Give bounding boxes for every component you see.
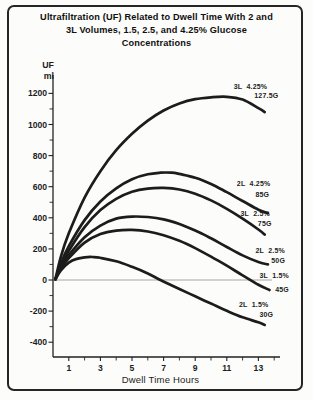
curve-label-2l-2-5: 2L 2.5% xyxy=(256,247,286,254)
x-tick-label: 11 xyxy=(222,363,231,373)
y-tick-label: -400 xyxy=(30,337,47,347)
y-tick-label: 1200 xyxy=(28,88,47,98)
uf-dwell-time-chart: 120010008006004002000-200-400135791113UF… xyxy=(0,0,313,400)
curve-label-2l-1-5: 2L 1.5% xyxy=(239,301,269,308)
x-tick-label: 9 xyxy=(193,363,198,373)
x-tick-label: 13 xyxy=(254,363,264,373)
curve-label-2l-4-25: 2L 4.25% xyxy=(237,180,271,187)
curve-label-3l-1-5: 3L 1.5% xyxy=(259,272,289,279)
y-tick-label: 200 xyxy=(33,244,48,254)
y-tick-label: 400 xyxy=(33,213,48,223)
y-tick-label: -200 xyxy=(30,306,47,316)
curve-label-3l-2-5: 3L 2.5% xyxy=(240,210,270,217)
curve-label-2l-1-5-load: 30G xyxy=(259,311,273,318)
curve-label-3l-1-5-load: 45G xyxy=(275,286,289,293)
y-axis-unit-label: UF xyxy=(42,60,54,70)
y-tick-label: 800 xyxy=(33,151,48,161)
y-tick-label: 600 xyxy=(33,182,48,192)
x-tick-label: 7 xyxy=(161,363,166,373)
curve-2l-1-5 xyxy=(55,257,264,325)
x-axis-title: Dwell Time Hours xyxy=(53,374,268,385)
y-tick-label: 0 xyxy=(42,275,47,285)
curve-label-3l-4-25: 3L 4.25% xyxy=(234,83,268,90)
y-tick-label: 1000 xyxy=(28,120,47,130)
curve-label-3l-2-5-load: 75G xyxy=(258,220,272,227)
y-axis-unit-label: ml xyxy=(44,71,54,81)
x-tick-label: 3 xyxy=(98,363,103,373)
x-tick-label: 5 xyxy=(130,363,135,373)
curve-label-3l-4-25-load: 127.5G xyxy=(254,92,279,99)
figure-page: Ultrafiltration (UF) Related to Dwell Ti… xyxy=(0,0,313,400)
curve-label-2l-2-5-load: 50G xyxy=(271,257,285,264)
curve-label-2l-4-25-load: 85G xyxy=(255,191,269,198)
x-tick-label: 1 xyxy=(66,363,71,373)
